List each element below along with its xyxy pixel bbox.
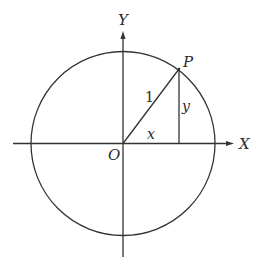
y-axis-arrow-icon <box>121 31 126 39</box>
diagram-svg: Y X O P 1 y x <box>0 0 262 267</box>
point-p-label: P <box>182 53 194 71</box>
point-p-marker <box>178 68 181 71</box>
origin-label: O <box>108 146 120 164</box>
radius-label: 1 <box>145 89 154 105</box>
x-axis-arrow-icon <box>226 141 234 146</box>
x-axis-label: X <box>238 135 251 153</box>
unit-circle-diagram: Y X O P 1 y x <box>0 0 262 267</box>
y-axis-label: Y <box>118 11 130 29</box>
y-leg-label: y <box>181 98 191 114</box>
x-leg-label: x <box>147 126 155 142</box>
